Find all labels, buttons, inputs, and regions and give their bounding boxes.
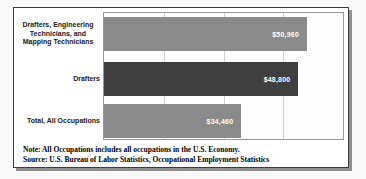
bar-drafters: $48,800 [104, 62, 298, 96]
bar-row: $48,800 [104, 62, 343, 96]
plot-area: $50,960 $48,800 $34,460 [103, 12, 344, 140]
chart-frame: Drafters, Engineering Technicians, and M… [13, 7, 349, 168]
bar-value-label: $48,800 [264, 76, 299, 83]
bar-row: $34,460 [104, 104, 343, 138]
category-label-drafters-engineering-mapping-technicians: Drafters, Engineering Technicians, and M… [16, 17, 100, 51]
page: Drafters, Engineering Technicians, and M… [0, 0, 366, 179]
footnotes: Note: All Occupations includes all occup… [23, 145, 344, 164]
bar-value-label: $34,460 [207, 118, 242, 125]
category-label-total-all-occupations: Total, All Occupations [16, 104, 103, 138]
bar-drafters-engineering-mapping-technicians: $50,960 [104, 17, 307, 51]
bar-total-all-occupations: $34,460 [104, 104, 241, 138]
source-line: Source: U.S. Bureau of Labor Statistics,… [23, 155, 344, 165]
note-line: Note: All Occupations includes all occup… [23, 145, 344, 155]
category-label-drafters: Drafters [16, 62, 103, 96]
bar-row: $50,960 [104, 17, 343, 51]
bar-value-label: $50,960 [272, 31, 307, 38]
